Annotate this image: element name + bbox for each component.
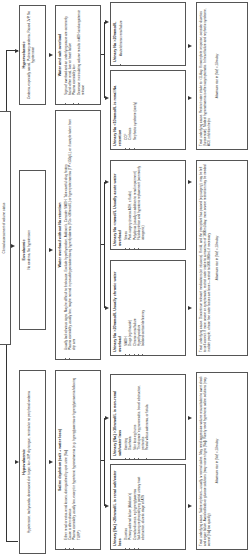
connector-line — [6, 51, 7, 111]
urinary-title: Urinary Na >20mmol/L — [113, 6, 118, 62]
arrow-down-icon — [188, 504, 192, 508]
urinary-renal-loss-box: Urinary [Na] <20mmol/L is renal salt/wat… — [110, 464, 186, 550]
connector-line — [104, 182, 105, 308]
saline-depletion-list: Either renal or extra-renal losses, dist… — [64, 374, 81, 546]
arrow-down-icon — [49, 460, 53, 464]
hypovolaemic-desc: Hypotension, tachycardia, decreased skin… — [27, 374, 31, 550]
arrow-down-icon — [105, 504, 109, 508]
treatment-overload-box: Treat underlying cause. Restrict water i… — [196, 2, 248, 150]
water-salt-overload-title: Water and salt overload — [58, 9, 63, 101]
list-item: Rectal villous adenoma, or fistula — [145, 378, 149, 450]
water-overload-title: Water overload without Na retention — [58, 114, 63, 356]
treatment-water-restrict-box: Treat underlying cause. Discontinue rele… — [196, 160, 248, 356]
connector-line — [104, 22, 105, 98]
arrow-down-icon — [188, 96, 192, 100]
urinary-na-retention-box: Urinary Na <10mmol/L is renal Na retenti… — [110, 70, 186, 150]
urinary-chronic-water-box: Urinary Na >20mmol/L Usually chronic wat… — [110, 260, 186, 356]
arrow-down-icon — [11, 244, 15, 248]
hypervolaemic-box: Hypervolaemic Oedema, especially sacral,… — [19, 5, 46, 105]
flowchart: Clinical assessment of volume status Hyp… — [0, 0, 252, 556]
water-overload-box: Water overload without Na retention Usua… — [55, 110, 101, 360]
saline-depletion-title: Saline depletion (salt + water loss) — [58, 374, 63, 546]
list-item: Plasma osmolality usually low, except in… — [72, 374, 80, 540]
arrow-down-icon — [188, 44, 192, 48]
list-item: Nephrotic syndrome (rarely) — [133, 74, 137, 140]
connector-line — [104, 418, 105, 506]
urinary-nonrenal-loss-box: Urinary [Na] >10mmol/L is non-renal salt… — [110, 374, 186, 460]
arrow-down-icon — [105, 96, 109, 100]
treatment-text: Treat underlying cause. Restrict water i… — [199, 6, 212, 146]
arrow-down-icon — [188, 180, 192, 184]
list-item: Signs of overload and an underlying caus… — [64, 9, 72, 95]
connector-line — [6, 345, 7, 542]
water-salt-overload-list: Signs of overload and an underlying caus… — [64, 9, 85, 101]
hypovolaemic-box: Hypovolaemic Hypotension, tachycardia, d… — [19, 370, 46, 554]
arrow-down-icon — [49, 53, 53, 57]
connector-line — [101, 54, 104, 55]
urinary-title: Urinary [Na] <20mmol/L is renal salt/wat… — [113, 468, 123, 546]
arrow-down-icon — [188, 306, 192, 310]
arrow-down-icon — [105, 416, 109, 420]
list-item: Plasma osmolality usually low; maybe nor… — [68, 114, 76, 350]
list-item: Isolated cortisol deficiency — [141, 264, 145, 346]
urinary-list: SIADH Drugs (eg thiazide) Chronic renal … — [124, 264, 145, 352]
list-item: Salt-losing nephropathy eg partial urina… — [137, 468, 145, 540]
euvolaemic-box: Euvolaemic No oedema, No hypotension — [19, 170, 46, 330]
euvolaemic-desc: No oedema, No hypotension — [27, 174, 31, 326]
arrow-down-icon — [105, 306, 109, 310]
list-item: 'Third space' eg pancreatitis, bowel obs… — [137, 378, 145, 450]
arrow-down-icon — [105, 20, 109, 24]
max-rate-note: Maximum rise in [Na] = 10m/day — [215, 164, 219, 352]
list-item: Fluid depletion and hypotonic replacemen… — [137, 164, 145, 240]
urinary-list: Stress Post-surgery (excess ADH, ± fluid… — [124, 164, 145, 246]
urinary-list: Diuretics Primary adrenal failure (Addis… — [124, 468, 145, 546]
list-item: Acute/chronic renal failure — [119, 6, 123, 56]
urinary-title: Urinary Na <10mmol/L is renal Na retenti… — [113, 74, 123, 146]
arrow-down-icon — [188, 416, 192, 420]
treatment-text: Treat underlying cause. Saline repletion… — [199, 376, 212, 546]
connector-line — [101, 244, 104, 245]
urinary-renal-failure-box: Urinary Na >20mmol/L Acute/chronic renal… — [110, 2, 186, 66]
list-item: Decrease in circulating volume results i… — [77, 9, 85, 95]
max-rate-note: Maximum rise in [Na] = 10m/day — [215, 6, 219, 146]
water-salt-overload-box: Water and salt overload Signs of overloa… — [55, 5, 101, 105]
arrow-down-icon — [49, 248, 53, 252]
treatment-text: Treat underlying cause. Discontinue rele… — [199, 164, 212, 352]
connector-line — [6, 541, 18, 542]
urinary-list: CCF Cirrhosis Nephrotic syndrome (rarely… — [124, 74, 137, 146]
header-label: Clinical assessment of volume status — [2, 203, 6, 254]
urinary-acute-water-box: Urinary Na <mmol/L Usually acute water o… — [110, 160, 186, 250]
saline-depletion-box: Saline depletion (salt + water loss) Eit… — [55, 370, 101, 550]
hypervolaemic-desc: Oedema, especially sacral, Pulmonary oed… — [27, 9, 35, 101]
urinary-list: Vomiting Diarrhoea Skin loss eg burns 'T… — [124, 378, 149, 456]
urinary-title: Urinary Na >20mmol/L Usually chronic wat… — [113, 264, 123, 352]
treatment-saline-box: Treat underlying cause. Saline repletion… — [196, 372, 248, 550]
water-overload-list: Usually lack obvious signs. May be diffi… — [64, 114, 77, 356]
connector-line — [101, 460, 104, 461]
urinary-list: Acute/chronic renal failure — [119, 6, 123, 62]
arrow-down-icon — [105, 180, 109, 184]
max-rate-note: Maximum rise in [Na] = 10m/day — [215, 376, 219, 546]
header-box: Clinical assessment of volume status — [0, 111, 11, 345]
urinary-title: Urinary Na <mmol/L Usually acute water o… — [113, 164, 123, 246]
urinary-title: Urinary [Na] >10mmol/L is non-renal salt… — [113, 378, 123, 456]
